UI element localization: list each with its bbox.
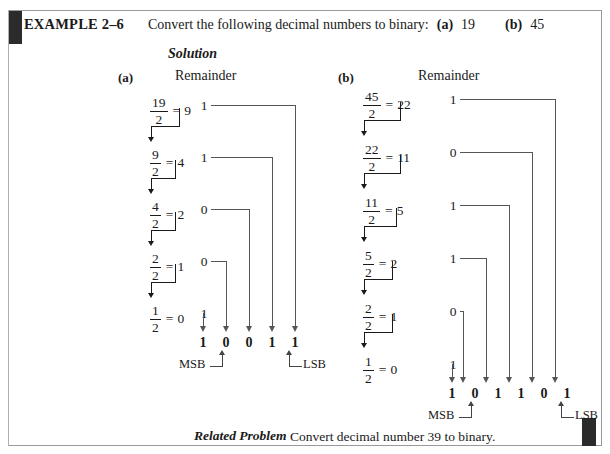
quotient: 0 bbox=[177, 311, 184, 327]
result-bit: 1 bbox=[492, 386, 504, 402]
equals-sign: = bbox=[166, 155, 174, 171]
fraction: 2 2 bbox=[363, 302, 374, 333]
part-a-tag: (a) bbox=[437, 17, 453, 32]
column-b-remainder-heading: Remainder bbox=[418, 68, 479, 84]
fraction-denominator: 2 bbox=[363, 319, 374, 333]
column-a-tag: (a) bbox=[118, 70, 133, 86]
quotient: 5 bbox=[397, 203, 404, 219]
result-bit: 1 bbox=[289, 335, 301, 351]
quotient: 9 bbox=[184, 103, 191, 119]
result-bit: 1 bbox=[446, 386, 458, 402]
fraction-numerator: 9 bbox=[150, 148, 161, 162]
example-marker-top-left bbox=[9, 11, 22, 44]
quotient: 0 bbox=[390, 362, 397, 378]
fraction-numerator: 1 bbox=[363, 355, 374, 369]
equals-sign: = bbox=[166, 207, 174, 223]
fraction: 22 2 bbox=[363, 143, 381, 174]
division-row: 1 2 = 0 bbox=[363, 355, 397, 386]
fraction-numerator: 4 bbox=[150, 200, 161, 214]
division-row: 22 2 = 11 bbox=[363, 143, 410, 174]
fraction-denominator: 2 bbox=[150, 113, 168, 127]
equals-sign: = bbox=[386, 150, 394, 166]
fraction: 19 2 bbox=[150, 96, 168, 127]
division-row: 1 2 = 0 bbox=[150, 304, 184, 335]
division-row: 9 2 = 4 bbox=[150, 148, 184, 179]
remainder-digit: 1 bbox=[199, 306, 209, 322]
fraction: 45 2 bbox=[363, 90, 381, 121]
msb-stem bbox=[471, 405, 472, 418]
remainder-digit: 1 bbox=[448, 357, 458, 373]
column-a-remainder-heading: Remainder bbox=[175, 68, 236, 84]
msb-arrow-head bbox=[468, 401, 474, 406]
fraction: 11 2 bbox=[363, 196, 380, 227]
fraction-denominator: 2 bbox=[150, 269, 161, 283]
quotient: 1 bbox=[177, 259, 184, 275]
fraction-numerator: 2 bbox=[363, 302, 374, 316]
lsb-stem bbox=[289, 354, 290, 367]
lsb-leader bbox=[289, 366, 302, 367]
remainder-digit: 1 bbox=[199, 150, 209, 166]
lsb-label: LSB bbox=[303, 357, 326, 372]
quotient: 4 bbox=[177, 155, 184, 171]
fraction-denominator: 2 bbox=[150, 321, 161, 335]
fraction: 9 2 bbox=[150, 148, 161, 179]
equals-sign: = bbox=[379, 362, 387, 378]
example-number: EXAMPLE 2–6 bbox=[24, 16, 124, 33]
division-row: 11 2 = 5 bbox=[363, 196, 403, 227]
fraction-numerator: 2 bbox=[150, 252, 161, 266]
result-bit: 1 bbox=[515, 386, 527, 402]
lsb-leader bbox=[561, 417, 574, 418]
lsb-arrow-head bbox=[558, 401, 564, 406]
result-bit: 0 bbox=[220, 335, 232, 351]
related-problem-text: Convert decimal number 39 to binary. bbox=[290, 429, 495, 445]
lsb-arrow-head bbox=[286, 350, 292, 355]
division-row: 45 2 = 22 bbox=[363, 90, 411, 121]
result-bit: 1 bbox=[561, 386, 573, 402]
part-a-value: 19 bbox=[461, 17, 475, 32]
remainder-digit: 0 bbox=[199, 202, 209, 218]
msb-label: MSB bbox=[428, 408, 454, 423]
fraction-denominator: 2 bbox=[363, 107, 381, 121]
remainder-digit: 0 bbox=[448, 304, 458, 320]
equals-sign: = bbox=[379, 309, 387, 325]
equals-sign: = bbox=[166, 259, 174, 275]
related-problem-label: Related Problem bbox=[194, 428, 287, 444]
equals-sign: = bbox=[386, 97, 394, 113]
quotient: 2 bbox=[177, 207, 184, 223]
statement-lead: Convert the following decimal numbers to… bbox=[148, 17, 429, 32]
fraction: 1 2 bbox=[150, 304, 161, 335]
fraction: 4 2 bbox=[150, 200, 161, 231]
remainder-digit: 1 bbox=[448, 92, 458, 108]
msb-arrow-head bbox=[219, 350, 225, 355]
fraction-denominator: 2 bbox=[363, 372, 374, 386]
example-figure: EXAMPLE 2–6 Convert the following decima… bbox=[0, 0, 610, 454]
fraction-denominator: 2 bbox=[150, 165, 161, 179]
result-bit: 0 bbox=[538, 386, 550, 402]
fraction-numerator: 19 bbox=[150, 96, 168, 110]
result-bit: 0 bbox=[469, 386, 481, 402]
fraction-denominator: 2 bbox=[363, 266, 374, 280]
fraction-numerator: 11 bbox=[363, 196, 380, 210]
fraction: 1 2 bbox=[363, 355, 374, 386]
example-box bbox=[8, 10, 602, 446]
example-statement: Convert the following decimal numbers to… bbox=[148, 17, 544, 33]
part-b-tag: (b) bbox=[505, 17, 522, 32]
solution-heading: Solution bbox=[168, 46, 217, 62]
fraction-denominator: 2 bbox=[150, 217, 161, 231]
fraction-numerator: 22 bbox=[363, 143, 381, 157]
result-bit: 1 bbox=[197, 335, 209, 351]
fraction-numerator: 45 bbox=[363, 90, 381, 104]
result-bit: 1 bbox=[266, 335, 278, 351]
division-row: 19 2 = 9 bbox=[150, 96, 191, 127]
fraction-denominator: 2 bbox=[363, 160, 381, 174]
remainder-digit: 1 bbox=[448, 251, 458, 267]
part-b-value: 45 bbox=[530, 17, 544, 32]
lsb-stem bbox=[561, 405, 562, 418]
fraction: 2 2 bbox=[150, 252, 161, 283]
division-row: 2 2 = 1 bbox=[150, 252, 184, 283]
column-b-tag: (b) bbox=[338, 70, 354, 86]
fraction: 5 2 bbox=[363, 249, 374, 280]
result-bit: 0 bbox=[243, 335, 255, 351]
remainder-digit: 1 bbox=[448, 198, 458, 214]
remainder-digit: 0 bbox=[448, 145, 458, 161]
